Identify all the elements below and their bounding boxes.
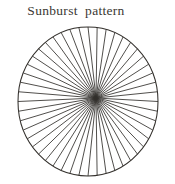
ray-group [18, 27, 158, 176]
sunburst-ray [23, 98, 96, 130]
sunburst-ray [96, 28, 97, 98]
sunburst-diagram [0, 0, 175, 184]
sunburst-ray [96, 92, 157, 98]
sunburst-ray [53, 98, 96, 166]
sunburst-svg [0, 0, 175, 184]
sunburst-ray [79, 28, 96, 98]
sunburst-ray [53, 37, 96, 98]
sunburst-ray [96, 98, 97, 175]
figure-page: Sunburst pattern [0, 0, 175, 184]
sunburst-ray [96, 42, 131, 98]
sunburst-ray [96, 98, 144, 147]
sunburst-ray [96, 98, 115, 170]
sunburst-ray [39, 49, 97, 98]
